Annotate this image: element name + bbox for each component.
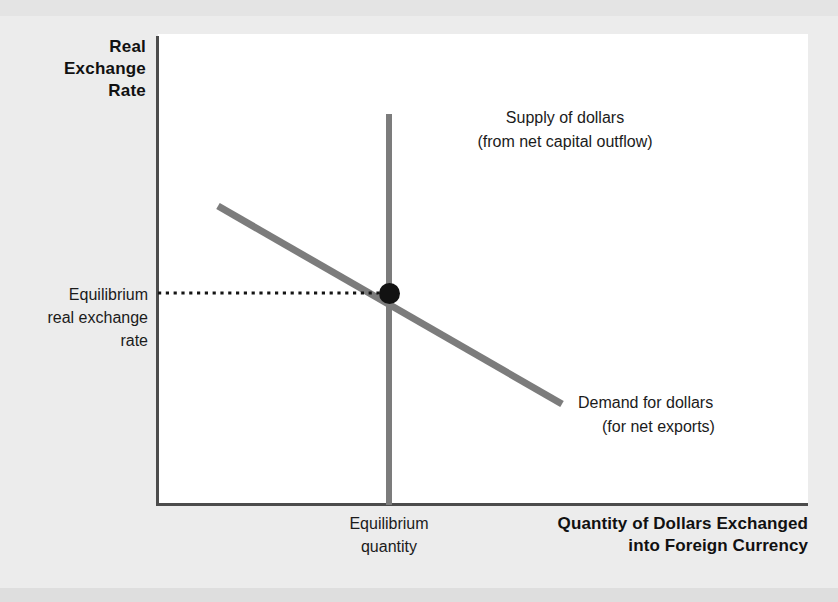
y-axis-line xyxy=(156,36,159,506)
equilibrium-rate-label: Equilibrium real exchange rate xyxy=(6,283,148,352)
equilibrium-point-marker xyxy=(379,283,400,304)
equilibrium-rate-label-line-2: real exchange xyxy=(6,306,148,329)
y-axis-label-line-1: Real xyxy=(58,36,146,58)
exchange-rate-market-figure: Real Exchange Rate Quantity of Dollars E… xyxy=(0,0,838,602)
equilibrium-quantity-label-line-2: quantity xyxy=(300,535,478,558)
demand-caption-line-2: (for net exports) xyxy=(578,415,828,439)
supply-caption-line-1: Supply of dollars xyxy=(418,106,712,130)
x-axis-label: Quantity of Dollars Exchanged into Forei… xyxy=(470,513,808,557)
equilibrium-rate-label-line-1: Equilibrium xyxy=(6,283,148,306)
supply-curve xyxy=(386,114,392,505)
page-bottom-band xyxy=(0,588,838,602)
y-axis-label-line-3: Rate xyxy=(58,80,146,102)
x-axis-label-line-1: Quantity of Dollars Exchanged xyxy=(470,513,808,535)
y-axis-label: Real Exchange Rate xyxy=(58,36,146,102)
x-axis-line xyxy=(156,503,808,506)
equilibrium-rate-guide-line xyxy=(158,291,390,295)
supply-caption-line-2: (from net capital outflow) xyxy=(418,130,712,154)
page-top-band xyxy=(0,0,838,16)
y-axis-label-line-2: Exchange xyxy=(58,58,146,80)
demand-curve-caption: Demand for dollars (for net exports) xyxy=(578,391,828,439)
equilibrium-quantity-label: Equilibrium quantity xyxy=(300,512,478,558)
equilibrium-quantity-label-line-1: Equilibrium xyxy=(300,512,478,535)
x-axis-label-line-2: into Foreign Currency xyxy=(470,535,808,557)
equilibrium-rate-label-line-3: rate xyxy=(6,329,148,352)
supply-curve-caption: Supply of dollars (from net capital outf… xyxy=(418,106,712,154)
demand-caption-line-1: Demand for dollars xyxy=(578,391,828,415)
